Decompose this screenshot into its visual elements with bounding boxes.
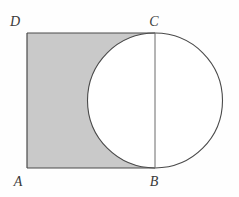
vertex-label-b: B xyxy=(142,175,166,189)
vertex-label-c: C xyxy=(142,15,166,29)
vertex-label-d: D xyxy=(3,15,27,29)
geometry-figure: D C A B xyxy=(0,0,239,197)
vertex-label-a: A xyxy=(6,175,30,189)
figure-canvas xyxy=(0,0,239,197)
shaded-region xyxy=(27,33,155,168)
